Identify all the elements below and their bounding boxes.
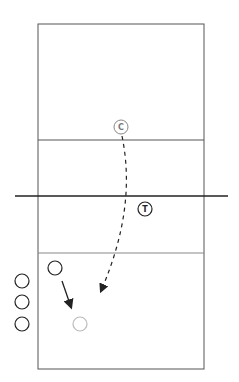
svg-text:T: T: [142, 205, 148, 214]
waiting-player-3: [15, 317, 29, 331]
svg-text:C: C: [118, 123, 124, 132]
target-spot: [73, 317, 87, 331]
waiting-player-2: [15, 295, 29, 309]
active-player: [48, 261, 62, 275]
player-movement-arrow: [62, 281, 71, 307]
ball-path-arrow: [101, 136, 126, 291]
volleyball-court-diagram: C T: [0, 0, 239, 382]
waiting-player-1: [15, 274, 29, 288]
coach-marker: C: [114, 120, 128, 134]
target-marker: T: [138, 202, 152, 216]
